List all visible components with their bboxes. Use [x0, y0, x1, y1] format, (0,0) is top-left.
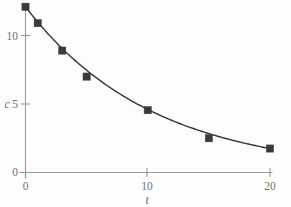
exponential-decay-chart: 10 5 0 0 10 20 c t — [0, 0, 291, 207]
x-axis-title: t — [145, 194, 149, 206]
fit-curve — [26, 7, 271, 149]
data-point-markers — [22, 3, 274, 152]
y-tick-label-5: 5 — [12, 98, 18, 110]
y-tick-label-0: 0 — [12, 166, 18, 178]
x-tick-label-10: 10 — [141, 180, 153, 192]
data-point-marker — [83, 73, 90, 80]
x-tick-label-0: 0 — [23, 180, 29, 192]
data-point-marker — [144, 107, 151, 114]
y-axis-title: c — [4, 98, 9, 110]
y-tick-label-10: 10 — [7, 30, 19, 42]
data-point-marker — [205, 135, 212, 142]
data-point-marker — [59, 47, 66, 54]
data-point-marker — [266, 145, 273, 152]
data-point-marker — [34, 20, 41, 27]
data-point-marker — [22, 3, 29, 10]
x-tick-label-20: 20 — [264, 180, 276, 192]
chart-figure: 10 5 0 0 10 20 c t — [0, 0, 291, 207]
